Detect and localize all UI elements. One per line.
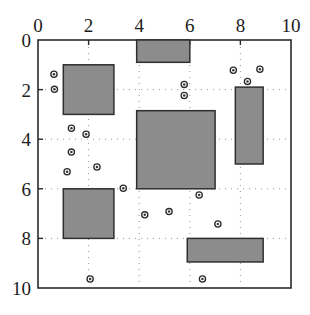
data-point-center [198, 194, 201, 197]
data-point-center [259, 68, 262, 71]
y-tick-label: 4 [22, 129, 32, 150]
y-tick-label: 10 [12, 278, 31, 299]
scatter-rectangle-plot: 0246810 0246810 [0, 0, 310, 315]
data-point-center [85, 133, 88, 136]
x-tick-label: 6 [185, 15, 195, 36]
x-axis-tick-labels: 0246810 [33, 15, 300, 36]
y-tick-label: 0 [22, 30, 32, 51]
x-tick-label: 2 [84, 15, 94, 36]
data-point-center [168, 210, 171, 213]
data-point-center [144, 214, 147, 217]
x-tick-label: 4 [134, 15, 144, 36]
x-tick-label: 0 [33, 15, 43, 36]
data-point-center [89, 278, 92, 281]
data-point-center [183, 94, 186, 97]
rect-center-large [137, 111, 215, 189]
data-point-center [96, 166, 99, 169]
y-axis-tick-labels: 0246810 [12, 30, 32, 299]
figure-canvas: 0246810 0246810 [0, 0, 310, 315]
data-point-center [66, 170, 69, 173]
x-tick-label: 10 [282, 15, 301, 36]
rect-right-tall [235, 87, 263, 164]
rect-bottom-right [187, 238, 263, 262]
data-point-center [70, 127, 73, 130]
data-point-center [53, 88, 56, 91]
data-point-center [217, 223, 220, 226]
data-point-center [201, 278, 204, 281]
data-point-center [246, 80, 249, 83]
y-tick-label: 8 [22, 228, 32, 249]
data-point-center [232, 69, 235, 72]
data-point-center [122, 187, 125, 190]
y-tick-label: 2 [22, 80, 32, 101]
data-point-center [53, 73, 56, 76]
rect-upper-left [63, 65, 114, 115]
data-point-center [183, 83, 186, 86]
y-tick-label: 6 [22, 179, 32, 200]
rect-top-center [137, 40, 190, 62]
rect-lower-left [63, 189, 114, 239]
x-tick-label: 8 [236, 15, 246, 36]
data-point-center [70, 151, 73, 154]
